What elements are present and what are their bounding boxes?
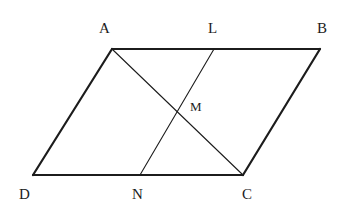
geometry-figure: A L B M D N C xyxy=(0,0,354,214)
segment-da xyxy=(33,49,112,175)
vertex-label-a: A xyxy=(99,21,110,36)
vertex-label-l: L xyxy=(208,21,217,36)
vertex-label-c: C xyxy=(242,187,252,202)
vertex-label-b: B xyxy=(317,21,327,36)
segment-ln xyxy=(140,49,214,175)
segment-bc xyxy=(243,49,320,175)
vertex-label-m: M xyxy=(190,99,202,114)
vertex-label-n: N xyxy=(132,187,143,202)
geometry-canvas xyxy=(0,0,354,214)
vertex-label-d: D xyxy=(19,187,30,202)
